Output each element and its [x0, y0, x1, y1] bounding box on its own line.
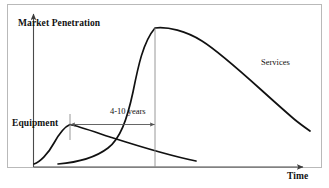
y-axis-label: Market Penetration [18, 19, 100, 29]
peak-lag-annotation-label: 4-10 years [110, 107, 146, 116]
series-label-services: Services [261, 58, 290, 67]
series-curve-equipment [34, 125, 196, 165]
series-curve-services [58, 28, 310, 164]
series-label-equipment: Equipment [12, 119, 58, 129]
market-penetration-lifecycle-chart: Market Penetration Equipment Services 4-… [0, 0, 329, 188]
x-axis-label: Time [287, 172, 308, 182]
